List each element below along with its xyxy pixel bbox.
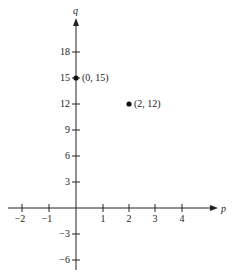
x-tick-label: 2	[127, 213, 132, 224]
y-tick-label: 15	[60, 72, 70, 83]
y-tick-label: 18	[60, 46, 70, 57]
x-tick-label: 4	[180, 213, 185, 224]
x-tick-label: 3	[153, 213, 158, 224]
x-tick-label: −2	[15, 213, 26, 224]
axes	[8, 24, 212, 270]
coordinate-plane: p q −2 −1 1 2 3 4 18 15 12 9 6 3 −3 −6	[0, 0, 233, 279]
y-axis-arrow-icon	[73, 18, 79, 26]
y-tick-label: 9	[65, 124, 70, 135]
data-point-0-15	[73, 75, 78, 80]
y-tick-label: −3	[59, 228, 70, 239]
y-tick-label: 3	[65, 176, 70, 187]
y-tick-label: 6	[65, 150, 70, 161]
point-label-0-15: (0, 15)	[82, 72, 109, 84]
y-axis-label: q	[73, 5, 78, 16]
x-tick-labels: −2 −1 1 2 3 4	[15, 213, 185, 224]
y-tick-label: 12	[60, 98, 70, 109]
x-axis-arrow-icon	[210, 205, 218, 211]
x-tick-label: 1	[101, 213, 106, 224]
x-axis-label: p	[220, 203, 226, 214]
y-tick-labels: 18 15 12 9 6 3 −3 −6	[59, 46, 70, 265]
point-label-2-12: (2, 12)	[134, 98, 161, 110]
x-tick-label: −1	[42, 213, 53, 224]
y-tick-label: −6	[59, 254, 70, 265]
data-point-2-12	[126, 101, 131, 106]
